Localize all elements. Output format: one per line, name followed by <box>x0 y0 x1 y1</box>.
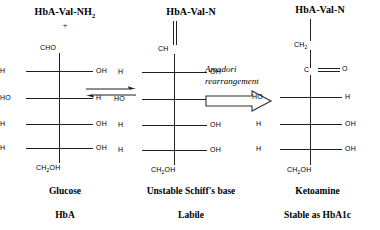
schiffs-base-row-3-bond <box>142 150 207 151</box>
structure-schiffs-base: HbA-Val-N CH H OH HO H H OH H OH CH2OH U… <box>126 0 256 230</box>
ketoamine-carbonyl-double-bond-upper <box>318 68 340 69</box>
ketoamine-row-0-bond <box>280 97 342 98</box>
ketoamine-row-2-bond <box>280 149 342 150</box>
ketoamine-terminal-ch2: CH2 <box>294 41 328 49</box>
schiffs-base-row-3-left: H <box>118 146 139 154</box>
glucose-row-0-bond <box>26 71 93 72</box>
schiffs-base-backbone-bond <box>174 54 175 165</box>
structure-ketoamine: HbA-Val-N CH2 C O HO H H OH H OH CH2O <box>260 0 380 230</box>
schiffs-base-row-3-right: OH <box>210 146 244 154</box>
schiffs-base-top-label: HbA-Val-N <box>126 6 256 17</box>
schiffs-base-row-2-left: H <box>118 121 139 129</box>
schiffs-base-terminal-ch2oh: CH2OH <box>151 166 199 174</box>
ketoamine-top-label: HbA-Val-N <box>260 4 380 15</box>
schiffs-base-row-1-left: HO <box>114 95 139 103</box>
schiffs-base-terminal-ch: CH <box>158 45 192 53</box>
glucose-terminal-ch2oh: CH2OH <box>36 164 84 172</box>
ketoamine-row-1-right: OH <box>345 120 375 128</box>
ketoamine-carbonyl-carbon: C <box>304 66 318 74</box>
glucose-row-3-left: H <box>0 144 23 152</box>
schiffs-base-caption-secondary: Labile <box>108 210 274 221</box>
glucose-backbone-bond <box>59 53 60 163</box>
glucose-plus-sign: + <box>0 20 130 30</box>
ketoamine-row-1-left: H <box>256 120 277 128</box>
glucose-top-label-sub: 2 <box>92 12 96 20</box>
ketoamine-carbonyl-oxygen: O <box>342 65 356 73</box>
glucose-row-1-bond <box>26 98 93 99</box>
ketoamine-row-2-right: OH <box>345 145 375 153</box>
schiffs-base-caption-primary: Unstable Schiff's base <box>108 186 274 197</box>
glucose-row-1-left: HO <box>0 94 23 102</box>
ketoamine-row-1-bond <box>280 124 342 125</box>
schiffs-base-imine-double-bond-right <box>176 21 177 45</box>
ketoamine-row-0-left: HO <box>252 93 277 101</box>
ketoamine-carbonyl-double-bond-lower <box>318 71 340 72</box>
glucose-row-2-bond <box>26 124 93 125</box>
schiffs-base-row-1-bond <box>142 99 207 100</box>
schiffs-base-imine-double-bond-left <box>173 21 174 45</box>
schiffs-base-row-0-bond <box>142 72 207 73</box>
ketoamine-terminal-ch2oh: CH2OH <box>287 166 335 174</box>
ketoamine-row-2-left: H <box>256 145 277 153</box>
reaction-diagram: HbA-Val-NH2 + CHO H OH HO H H OH H OH CH… <box>0 0 380 230</box>
glucose-terminal-cho: CHO <box>40 44 80 52</box>
ketoamine-caption-secondary: Stable as HbA1c <box>255 210 380 221</box>
ketoamine-backbone-bond <box>310 75 311 165</box>
ketoamine-row-0-right: H <box>345 93 375 101</box>
glucose-row-0-left: H <box>0 67 23 75</box>
glucose-row-2-left: H <box>0 120 23 128</box>
schiffs-base-row-0-left: H <box>118 68 139 76</box>
ketoamine-amine-bond <box>310 19 311 41</box>
schiffs-base-row-2-bond <box>142 125 207 126</box>
glucose-row-3-bond <box>26 148 93 149</box>
ketoamine-caption-primary: Ketoamine <box>255 186 380 197</box>
schiffs-base-row-2-right: OH <box>210 121 244 129</box>
